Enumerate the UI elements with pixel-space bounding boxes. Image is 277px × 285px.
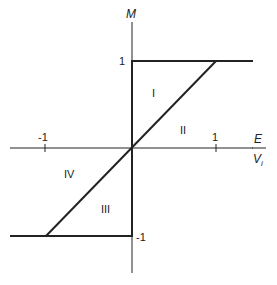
region-III: III — [101, 203, 110, 215]
x-label-den-sub: i — [261, 159, 263, 168]
region-I: I — [152, 87, 155, 99]
tick-label-y-neg: -1 — [136, 231, 146, 243]
tick-label-x-pos: 1 — [212, 131, 218, 143]
tick-label-y-pos: 1 — [119, 55, 125, 67]
curve-upper — [132, 61, 253, 148]
tick-label-x-neg: -1 — [38, 131, 48, 143]
curve-lower — [10, 148, 132, 236]
y-axis-label: M — [126, 7, 136, 21]
region-IV: IV — [64, 168, 75, 180]
diagram: M E V i -1 1 1 -1 I II III IV — [0, 0, 277, 285]
x-label-num: E — [254, 132, 263, 146]
region-II: II — [180, 124, 186, 136]
